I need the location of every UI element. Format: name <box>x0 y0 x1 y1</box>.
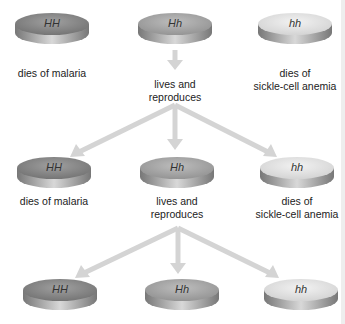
disk-Hh-row2: Hh <box>139 156 215 190</box>
disk-HH-row3: HH <box>22 278 98 312</box>
caption-Hh-row1: lives and reproduces <box>115 78 235 104</box>
genotype-label: Hh <box>144 283 220 295</box>
genotype-label: HH <box>14 17 90 29</box>
genotype-label: Hh <box>137 17 213 29</box>
disk-HH-row1: HH <box>14 12 90 46</box>
genotype-label: HH <box>16 161 92 173</box>
genotype-label: hh <box>259 161 335 173</box>
caption-hh-row2: dies of sickle-cell anemia <box>237 195 345 221</box>
genotype-label: hh <box>257 17 333 29</box>
caption-Hh-row2: lives and reproduces <box>117 195 237 221</box>
caption-hh-row1: dies of sickle-cell anemia <box>235 67 345 93</box>
arrow-branch-row1-to-row2 <box>70 105 277 157</box>
disk-HH-row2: HH <box>16 156 92 190</box>
genotype-label: HH <box>22 283 98 295</box>
arrow-branch-row2-to-row3 <box>75 228 279 278</box>
disk-Hh-row1: Hh <box>137 12 213 46</box>
disk-hh-row3: hh <box>263 278 339 312</box>
genotype-label: hh <box>263 283 339 295</box>
caption-HH-row1: dies of malaria <box>0 67 112 80</box>
disk-hh-row2: hh <box>259 156 335 190</box>
arrow-down-row1 <box>167 50 183 70</box>
genotype-label: Hh <box>139 161 215 173</box>
disk-Hh-row3: Hh <box>144 278 220 312</box>
disk-hh-row1: hh <box>257 12 333 46</box>
caption-HH-row2: dies of malaria <box>0 195 114 208</box>
